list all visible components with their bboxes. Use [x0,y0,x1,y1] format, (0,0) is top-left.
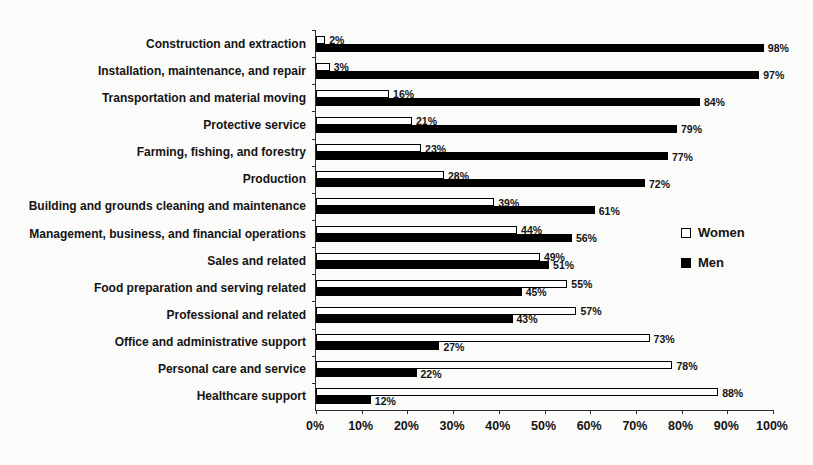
y-axis-tick [312,193,316,194]
x-axis-tick-label: 50% [531,419,556,433]
x-axis-tick [499,410,500,414]
women-bar [316,36,325,44]
men-value-label: 45% [526,287,547,297]
men-value-label: 56% [576,233,597,243]
men-bar [316,342,439,350]
men-value-label: 98% [768,43,789,53]
y-axis-tick [312,111,316,112]
category-label: Farming, fishing, and forestry [0,139,306,166]
men-bar [316,44,764,52]
x-axis-tick-label: 10% [348,419,373,433]
men-value-label: 22% [421,369,442,379]
men-value-label: 72% [649,179,670,189]
men-value-label: 43% [517,314,538,324]
x-axis-tick-label: 0% [306,419,324,433]
women-bar [316,334,650,342]
category-label: Food preparation and serving related [0,274,306,301]
category-label: Installation, maintenance, and repair [0,57,306,84]
category-label: Protective service [0,111,306,138]
men-bar [316,152,668,160]
women-bar [316,226,517,234]
men-bar [316,261,549,269]
legend-item-men: Men [681,255,745,270]
men-bar [316,396,371,404]
women-value-label: 78% [676,361,697,371]
y-axis-tick [312,220,316,221]
legend-label: Men [698,255,724,270]
x-axis-tick [682,410,683,414]
men-value-label: 27% [443,342,464,352]
category-label: Management, business, and financial oper… [0,220,306,247]
men-bar [316,234,572,242]
men-bar [316,369,417,377]
occupation-gender-bar-chart: Construction and extractionInstallation,… [0,0,813,465]
women-bar [316,117,412,125]
category-label: Personal care and service [0,356,306,383]
y-axis-tick [312,274,316,275]
men-bar [316,315,513,323]
men-value-label: 77% [672,152,693,162]
women-bar [316,90,389,98]
x-axis-tick [545,410,546,414]
men-bar [316,98,700,106]
category-label: Office and administrative support [0,329,306,356]
x-axis-tick [362,410,363,414]
x-axis-tick [773,410,774,414]
category-label: Construction and extraction [0,30,306,57]
x-axis-tick [636,410,637,414]
x-axis-tick [316,410,317,414]
x-axis-tick-label: 60% [577,419,602,433]
men-bar [316,71,759,79]
men-value-label: 79% [681,124,702,134]
women-bar [316,361,672,369]
legend-item-women: Women [681,225,745,240]
x-axis-tick-label: 30% [440,419,465,433]
women-bar [316,198,494,206]
x-axis-tick [407,410,408,414]
category-label: Building and grounds cleaning and mainte… [0,193,306,220]
x-axis-tick-label: 20% [394,419,419,433]
x-axis-tick [590,410,591,414]
y-axis-tick [312,301,316,302]
y-axis-tick [312,30,316,31]
category-label: Production [0,166,306,193]
y-axis-tick [312,329,316,330]
men-value-label: 61% [599,206,620,216]
men-value-label: 97% [763,70,784,80]
y-axis-tick [312,247,316,248]
women-bar [316,63,330,71]
women-bar [316,253,540,261]
men-value-label: 12% [375,396,396,406]
y-axis-tick [312,166,316,167]
women-bar [316,171,444,179]
x-axis-tick [453,410,454,414]
men-bar [316,179,645,187]
men-swatch-icon [681,258,691,268]
y-axis-tick [312,57,316,58]
women-value-label: 57% [580,306,601,316]
men-bar [316,206,595,214]
women-swatch-icon [681,228,691,238]
x-axis-tick-label: 80% [668,419,693,433]
women-value-label: 55% [571,279,592,289]
y-axis-tick [312,356,316,357]
x-axis-tick-label: 40% [485,419,510,433]
legend: WomenMen [681,225,745,285]
category-label: Professional and related [0,301,306,328]
plot-area: 2%98%3%97%16%84%21%79%23%77%28%72%39%61%… [315,30,773,411]
x-axis-tick-label: 100% [756,419,788,433]
y-axis-tick [312,139,316,140]
women-value-label: 88% [722,388,743,398]
category-label: Healthcare support [0,383,306,410]
legend-label: Women [698,225,745,240]
x-axis-tick-label: 70% [622,419,647,433]
category-label: Sales and related [0,247,306,274]
category-label: Transportation and material moving [0,84,306,111]
y-axis-tick [312,383,316,384]
men-bar [316,125,677,133]
y-axis-tick [312,84,316,85]
men-value-label: 51% [553,260,574,270]
women-value-label: 73% [654,334,675,344]
women-bar [316,144,421,152]
men-bar [316,288,522,296]
